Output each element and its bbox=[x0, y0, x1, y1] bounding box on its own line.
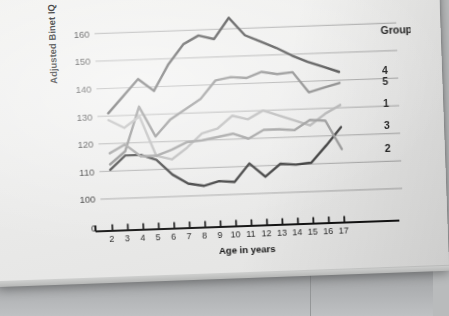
page-lighting-overlay bbox=[0, 0, 449, 282]
printed-page: Adjusted Binet IQ 0100110120130140150160… bbox=[0, 0, 449, 282]
desk-seam-line bbox=[310, 272, 311, 316]
